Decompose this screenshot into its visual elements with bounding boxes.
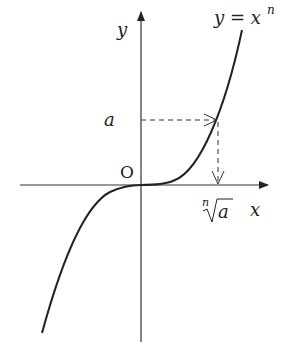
a-label: a: [104, 109, 115, 130]
y-axis-label: y: [116, 19, 128, 40]
equation-label: y = x n: [213, 3, 275, 28]
svg-text:y = x: y = x: [213, 7, 261, 28]
origin-label: O: [120, 162, 134, 182]
x-axis-label: x: [250, 199, 260, 220]
power-function-diagram: y x O a y = x n n a: [0, 0, 283, 358]
svg-text:n: n: [202, 196, 209, 209]
svg-text:a: a: [218, 201, 229, 222]
curve-y-equals-x-to-n: [42, 30, 242, 333]
svg-text:n: n: [267, 3, 275, 17]
nth-root-of-a-label: n a: [202, 196, 233, 222]
